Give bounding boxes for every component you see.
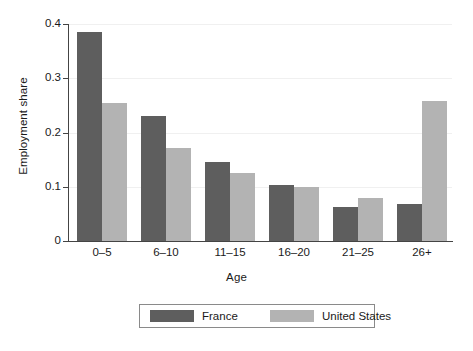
bar-france xyxy=(77,32,102,241)
x-tick-label: 21–25 xyxy=(333,246,383,258)
legend-label: France xyxy=(202,310,238,322)
bar-france xyxy=(205,162,230,241)
legend-swatch xyxy=(150,310,194,322)
x-tick-label: 11–15 xyxy=(205,246,255,258)
chart-figure: Employment share 00.10.20.30.4 0–56–1011… xyxy=(0,0,473,351)
bar-group: 21–25 xyxy=(333,24,383,241)
legend-label: United States xyxy=(322,310,391,322)
bar-united-states xyxy=(358,198,383,241)
y-axis-title: Employment share xyxy=(17,41,29,211)
y-tick-mark xyxy=(63,241,68,242)
y-tick-label: 0.4 xyxy=(45,18,61,30)
legend-item: United States xyxy=(270,305,391,327)
y-tick-label: 0 xyxy=(55,235,61,247)
y-tick-label: 0.2 xyxy=(45,127,61,139)
bar-france xyxy=(333,207,358,241)
y-tick-label: 0.1 xyxy=(45,181,61,193)
bar-group: 6–10 xyxy=(141,24,191,241)
legend-swatch xyxy=(270,310,314,322)
y-tick-mark xyxy=(63,187,68,188)
bar-united-states xyxy=(230,173,255,241)
y-axis-line xyxy=(68,24,69,242)
bar-united-states xyxy=(166,148,191,241)
x-tick-label: 16–20 xyxy=(269,246,319,258)
bar-united-states xyxy=(422,101,447,241)
x-tick-label: 6–10 xyxy=(141,246,191,258)
bar-group: 26+ xyxy=(397,24,447,241)
y-tick-mark xyxy=(63,24,68,25)
bar-group: 0–5 xyxy=(77,24,127,241)
bar-france xyxy=(397,204,422,241)
plot-area: 00.10.20.30.4 0–56–1011–1516–2021–2526+ xyxy=(68,24,452,241)
bar-united-states xyxy=(102,103,127,241)
bar-france xyxy=(141,116,166,241)
x-axis-line xyxy=(68,241,453,242)
y-tick-mark xyxy=(63,133,68,134)
bar-united-states xyxy=(294,187,319,241)
x-tick-label: 0–5 xyxy=(77,246,127,258)
bar-group: 16–20 xyxy=(269,24,319,241)
x-tick-label: 26+ xyxy=(397,246,447,258)
y-tick-label: 0.3 xyxy=(45,73,61,85)
legend-item: France xyxy=(150,305,238,327)
x-axis-title: Age xyxy=(0,271,473,283)
y-tick-mark xyxy=(63,78,68,79)
chart-legend: FranceUnited States xyxy=(139,304,375,328)
bar-group: 11–15 xyxy=(205,24,255,241)
bar-france xyxy=(269,185,294,241)
